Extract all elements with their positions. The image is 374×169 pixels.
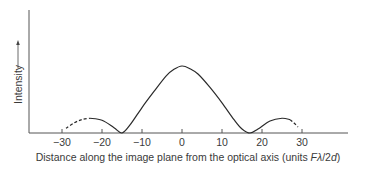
x-tick-label: −10 [133,136,151,148]
x-tick-label: −30 [53,136,71,148]
dashed-tail-curve [290,120,298,127]
intensity-curves [66,66,298,133]
x-tick-label: 30 [296,136,308,148]
intensity-curve [90,66,290,133]
x-axis-ticks: −30−20−100102030 [53,129,308,148]
y-axis-label-group: Intensity [12,40,24,104]
arrow-up-icon [16,40,20,45]
dashed-tail-curve [66,118,90,128]
x-tick-label: 10 [216,136,228,148]
x-tick-label: 0 [179,136,185,148]
x-tick-label: −20 [93,136,111,148]
y-axis-label: Intensity [12,64,24,104]
x-tick-label: 20 [256,136,268,148]
x-axis-label: Distance along the image plane from the … [36,151,341,163]
diffraction-intensity-chart: Intensity −30−20−100102030 Distance alon… [0,0,374,169]
